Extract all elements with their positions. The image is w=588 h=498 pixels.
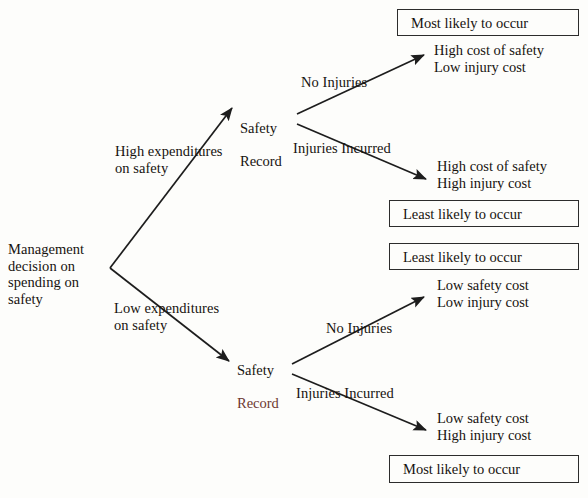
- sub-branch-label-no-injuries-upper: No Injuries: [301, 74, 367, 91]
- callout-box-least-likely-lower: Least likely to occur: [389, 243, 579, 270]
- outcome-high-safety-low-injury: High cost of safety Low injury cost: [434, 42, 584, 76]
- decision-tree-diagram: Management decision on spending on safet…: [0, 0, 588, 498]
- node-safety-record-lower: Safety Record: [237, 345, 297, 428]
- sub-branch-label-injuries-incurred-upper: Injuries Incurred: [293, 140, 391, 157]
- edge-lower-injuries-incurred: [292, 374, 426, 430]
- edge-root-to-upper-safety-record: [110, 108, 232, 268]
- callout-box-most-likely-top-text: Most likely to occur: [398, 15, 528, 31]
- root-node-label: Management decision on spending on safet…: [8, 241, 112, 307]
- sub-branch-label-no-injuries-lower: No Injuries: [326, 320, 392, 337]
- node-safety-record-lower-line2: Record: [237, 395, 297, 412]
- node-safety-record-upper-line2: Record: [240, 153, 300, 170]
- branch-label-high-expenditures: High expenditures on safety: [115, 143, 255, 176]
- callout-box-least-likely-upper-text: Least likely to occur: [390, 206, 522, 222]
- callout-box-most-likely-bottom: Most likely to occur: [389, 455, 579, 483]
- callout-box-least-likely-lower-text: Least likely to occur: [390, 249, 522, 265]
- outcome-low-safety-low-injury: Low safety cost Low injury cost: [437, 277, 587, 311]
- outcome-low-safety-high-injury: Low safety cost High injury cost: [437, 410, 587, 444]
- node-safety-record-upper-line1: Safety: [240, 120, 300, 137]
- node-safety-record-upper: Safety Record: [240, 103, 300, 186]
- sub-branch-label-injuries-incurred-lower: Injuries Incurred: [296, 385, 394, 402]
- outcome-high-safety-high-injury: High cost of safety High injury cost: [437, 158, 587, 192]
- branch-label-low-expenditures: Low expenditures on safety: [114, 300, 254, 333]
- node-safety-record-lower-line1: Safety: [237, 362, 297, 379]
- callout-box-most-likely-top: Most likely to occur: [397, 9, 579, 36]
- callout-box-least-likely-upper: Least likely to occur: [389, 200, 579, 227]
- callout-box-most-likely-bottom-text: Most likely to occur: [390, 461, 520, 477]
